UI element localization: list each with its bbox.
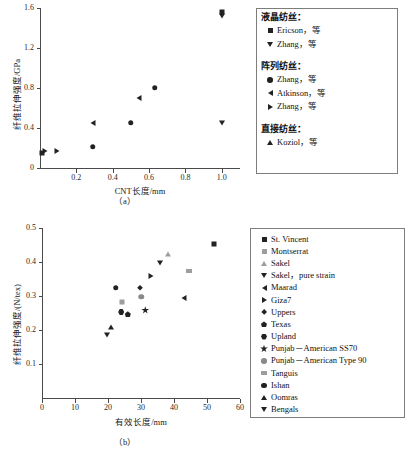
marker-square — [262, 249, 267, 254]
legend-item[interactable]: Ishan — [251, 379, 404, 391]
legend-item[interactable]: Sakel — [251, 257, 404, 269]
legend-item[interactable]: Oomras — [251, 391, 404, 403]
x-tick-label: 0.6 — [135, 174, 163, 182]
x-tick-label: 10 — [61, 404, 89, 412]
y-tick-label: 1.6 — [6, 4, 34, 12]
y-axis-line — [40, 8, 41, 168]
legend-item[interactable]: Upland — [251, 331, 404, 343]
x-tick — [207, 399, 208, 403]
legend-item[interactable]: Ericson，等 — [257, 24, 397, 38]
data-point-tri-up — [108, 324, 114, 329]
data-point-tri-up — [165, 251, 171, 256]
legend-item[interactable]: Zhang，等 — [257, 100, 397, 114]
x-tick-label: 40 — [160, 404, 188, 412]
legend-item-label: Sakel，pure strain — [271, 271, 335, 280]
data-point-tri-down — [157, 260, 163, 265]
x-tick-label: 20 — [94, 404, 122, 412]
y-tick-label: 0.4 — [8, 258, 36, 266]
legend-item[interactable]: St. Vincent — [251, 233, 404, 245]
legend-item[interactable]: Bengals — [251, 404, 404, 416]
legend-item[interactable]: Atkinson，等 — [257, 87, 397, 101]
data-point-tri-right — [148, 273, 153, 279]
legend-item[interactable]: Punjab－American SS70 — [251, 343, 404, 355]
data-point-tri-down — [219, 121, 225, 126]
legend-marker-tri-down — [263, 42, 277, 47]
data-point-circle — [152, 85, 158, 91]
x-tick-label: 0.4 — [99, 174, 127, 182]
y-tick — [37, 8, 41, 9]
legend-spacer — [257, 114, 397, 121]
x-tick-label: 0.8 — [171, 174, 199, 182]
legend-marker-tri-down — [257, 273, 271, 278]
x-axis-line — [40, 168, 240, 169]
x-tick-label: 0 — [28, 404, 56, 412]
marker-circle — [267, 77, 273, 83]
data-point-square — [120, 300, 125, 305]
legend-item[interactable]: Punjab－American Type 90 — [251, 355, 404, 367]
legend-item-label: Punjab－American Type 90 — [271, 356, 367, 365]
data-point-tri-left — [90, 120, 95, 126]
legend-item[interactable]: Koziol，等 — [257, 136, 397, 150]
marker-tri-right — [262, 297, 267, 303]
data-point-hexagon — [118, 309, 124, 315]
data-point-star — [141, 306, 149, 314]
x-tick — [185, 169, 186, 173]
marker-tri-down — [261, 273, 267, 278]
legend-marker-diamond — [257, 310, 271, 314]
legend-item-label: Upland — [271, 332, 296, 341]
legend-marker-tri-right — [263, 104, 277, 110]
x-tick — [113, 169, 114, 173]
legend-item-label: Zhang，等 — [277, 75, 317, 84]
data-point-circle — [128, 120, 134, 126]
legend-item-label: Texas — [271, 320, 291, 329]
marker-pentagon — [261, 321, 267, 327]
x-axis-title-a: CNT长度/mm — [80, 186, 200, 196]
marker-tri-right — [268, 104, 273, 110]
x-tick-label: 30 — [127, 404, 155, 412]
marker-tri-down — [267, 42, 273, 47]
data-point-circle — [139, 294, 145, 300]
y-tick — [37, 168, 41, 169]
legend-item-label: Zhang，等 — [277, 40, 317, 49]
marker-tri-down — [261, 407, 267, 412]
x-tick — [42, 399, 43, 403]
legend-panel-b: St. VincentMontserratSakelSakel，pure str… — [250, 228, 405, 418]
legend-spacer — [257, 51, 397, 58]
legend-item[interactable]: Uppers — [251, 306, 404, 318]
y-tick — [39, 364, 43, 365]
legend-item-label: Uppers — [271, 308, 296, 317]
data-point-square — [211, 242, 216, 247]
x-tick — [240, 399, 241, 403]
legend-item[interactable]: Maarad — [251, 282, 404, 294]
data-point-circle — [113, 285, 119, 291]
y-axis-title-a: 纤维拉伸强度/GPa — [12, 59, 22, 130]
legend-item[interactable]: Zhang，等 — [257, 38, 397, 52]
legend-item[interactable]: Sakel，pure strain — [251, 270, 404, 282]
legend-item[interactable]: Giza7 — [251, 294, 404, 306]
legend-marker-square — [263, 28, 277, 33]
legend-marker-tri-up — [257, 395, 271, 400]
marker-square — [262, 237, 267, 242]
legend-item-label: Atkinson，等 — [277, 89, 326, 98]
x-tick-label: 50 — [193, 404, 221, 412]
plot-area-a: 00.40.81.21.60.20.40.60.81.0 — [0, 0, 250, 210]
marker-hexagon — [261, 334, 267, 340]
data-point-tri-down — [219, 13, 225, 18]
legend-item-label: Bengals — [271, 405, 298, 414]
legend-marker-circle — [263, 77, 277, 83]
legend-marker-circle — [257, 358, 271, 364]
legend-item-label: Sakel — [271, 259, 290, 268]
x-tick — [222, 169, 223, 173]
legend-marker-tri-right — [257, 297, 271, 303]
legend-item[interactable]: Zhang，等 — [257, 73, 397, 87]
legend-item[interactable]: Montserrat — [251, 245, 404, 257]
legend-item[interactable]: Texas — [251, 318, 404, 330]
legend-group-header: 阵列纺丝： — [257, 58, 397, 73]
legend-item-label: Zhang，等 — [277, 102, 317, 111]
y-tick — [39, 228, 43, 229]
legend-item[interactable]: Tanguis — [251, 367, 404, 379]
legend-marker-tri-up — [257, 261, 271, 266]
panel-a-caption: （a） — [0, 196, 250, 206]
y-tick — [37, 88, 41, 89]
y-tick — [37, 48, 41, 49]
